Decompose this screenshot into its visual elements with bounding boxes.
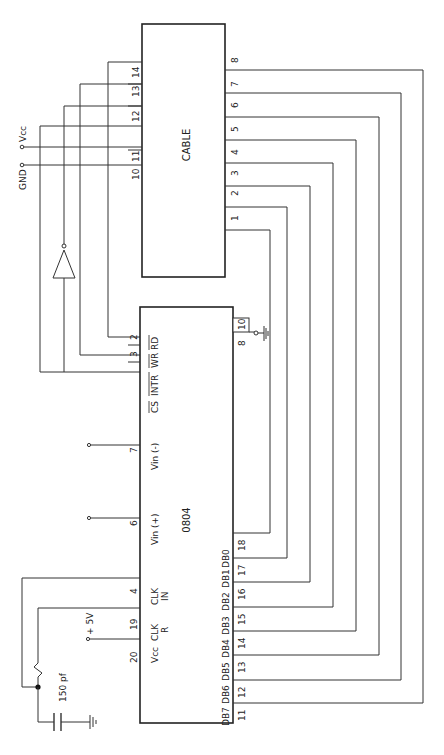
db-pin-labels: DB711DB612DB513DB414DB315DB216DB117DB018 xyxy=(221,539,247,726)
cable-pin-3: 3 xyxy=(230,170,240,176)
cable-pin-10: 10 xyxy=(131,168,141,180)
db-label-db5: DB5 xyxy=(221,662,231,681)
cable-pin-6: 6 xyxy=(230,102,240,108)
clkr-label2: R xyxy=(160,627,170,633)
db-label-db7: DB7 xyxy=(221,707,231,726)
cable-pin-4: 4 xyxy=(230,149,240,155)
cable-pin-5: 5 xyxy=(230,126,240,132)
db-wires xyxy=(225,70,423,703)
cs-label: CS xyxy=(150,401,160,413)
schematic: CABLE 10 11 12 13 14 1 2 3 4 5 6 7 8 GND… xyxy=(0,0,444,755)
db7-wire xyxy=(225,70,423,703)
pin-13: 13 xyxy=(237,662,247,673)
vcc-pin-label: Vcc xyxy=(150,647,160,663)
inverter-gate xyxy=(53,244,75,278)
chip-label: 0804 xyxy=(181,507,192,532)
vin-plus-label: Vin (+) xyxy=(150,513,160,545)
db-label-db4: DB4 xyxy=(221,639,231,658)
pin-19: 19 xyxy=(129,618,139,630)
cable-pin-12: 12 xyxy=(131,111,141,122)
pin-12: 12 xyxy=(237,687,247,698)
pin-17: 17 xyxy=(237,565,247,576)
pin-16: 16 xyxy=(237,588,247,600)
cable-pin-7: 7 xyxy=(230,81,240,87)
cable-pin-1: 1 xyxy=(230,215,240,221)
pin-14: 14 xyxy=(237,637,247,649)
clkin-label2: IN xyxy=(160,592,170,601)
plus5v-label: + 5V xyxy=(85,612,95,635)
cable-pin-13: 13 xyxy=(131,86,141,97)
gnd-label: GND xyxy=(18,169,28,190)
pin-15: 15 xyxy=(237,614,247,625)
pin-8: 8 xyxy=(237,340,247,346)
db4-wire xyxy=(225,140,356,631)
pin-4: 4 xyxy=(129,588,139,594)
clkr-label: CLK xyxy=(150,623,160,641)
vin-minus-label: Vin (-) xyxy=(150,443,160,470)
pin-20: 20 xyxy=(129,651,139,663)
intr-label: INTR xyxy=(150,375,160,396)
rc-network: 150 pf xyxy=(34,663,96,731)
vcc-label: Vcc xyxy=(18,126,28,142)
pin-6: 6 xyxy=(129,520,139,526)
pin-2: 2 xyxy=(129,334,139,340)
cable-side-pins: 1 2 3 4 5 6 7 8 xyxy=(230,57,240,221)
cable-top-pins: 10 11 12 13 14 xyxy=(128,66,142,180)
cable-pin-2: 2 xyxy=(230,190,240,196)
db-label-db1: DB1 xyxy=(221,569,231,588)
control-wires xyxy=(40,62,142,372)
cable-pin-11: 11 xyxy=(131,151,141,162)
db-label-db0: DB0 xyxy=(221,549,231,568)
db-label-db2: DB2 xyxy=(221,592,231,611)
db6-wire xyxy=(225,93,401,680)
cable-pin-14: 14 xyxy=(131,66,141,78)
db2-wire xyxy=(225,186,310,582)
pin-10: 10 xyxy=(237,318,247,330)
pin-3: 3 xyxy=(129,351,139,357)
pin-7: 7 xyxy=(129,447,139,453)
rd-label: RD xyxy=(150,337,160,350)
wr-label: WR xyxy=(150,353,160,368)
capacitor-label: 150 pf xyxy=(58,672,68,702)
cable-label: CABLE xyxy=(181,129,192,162)
chip-ground: 10 8 xyxy=(233,318,268,346)
pin-18: 18 xyxy=(237,539,247,551)
cable-pin-8: 8 xyxy=(230,57,240,63)
db1-wire xyxy=(225,207,287,558)
db-label-db3: DB3 xyxy=(221,616,231,635)
clkin-label: CLK xyxy=(150,587,160,605)
db-label-db6: DB6 xyxy=(221,685,231,704)
pin-11: 11 xyxy=(237,710,247,721)
